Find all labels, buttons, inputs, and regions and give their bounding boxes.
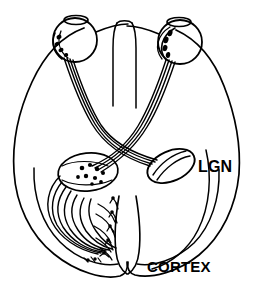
lgn-label: LGN <box>198 158 232 175</box>
visual-pathway-diagram: LGN CORTEX <box>0 0 255 288</box>
cortex-label: CORTEX <box>147 258 211 275</box>
visual-pathway-figure: LGN CORTEX <box>0 0 255 288</box>
